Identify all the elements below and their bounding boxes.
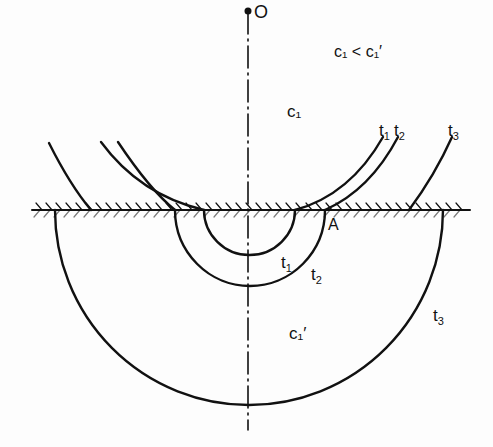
wavefront-t1-upper-label: t1 — [379, 122, 390, 142]
source-point-o — [245, 8, 252, 15]
wavefront-t1-lower-label: t1 — [281, 254, 292, 274]
wavefront-t2-upper-label: t2 — [394, 122, 405, 142]
diagram-svg — [0, 0, 493, 447]
point-a-label: A — [328, 217, 339, 233]
wavefront-t3-lower — [55, 210, 443, 405]
upper-medium-label: c₁ — [287, 103, 301, 120]
wavefront-t2-lower — [175, 210, 325, 286]
wavefront-t3-lower-label: t3 — [433, 307, 444, 327]
relation-label: c₁ < c₁′ — [334, 44, 382, 60]
wavefront-t1-lower — [204, 210, 295, 255]
wavefront-t3-upper-label: t3 — [448, 122, 459, 142]
wavefront-t2-lower-label: t2 — [311, 266, 322, 286]
wavefront-t1-upper — [101, 137, 383, 210]
origin-label: O — [254, 3, 268, 21]
diagram-canvas: O c₁ < c₁′ c₁ c₁′ A t1 t2 t3 t1 t2 t3 — [0, 0, 493, 447]
lower-medium-label: c₁′ — [289, 325, 306, 342]
